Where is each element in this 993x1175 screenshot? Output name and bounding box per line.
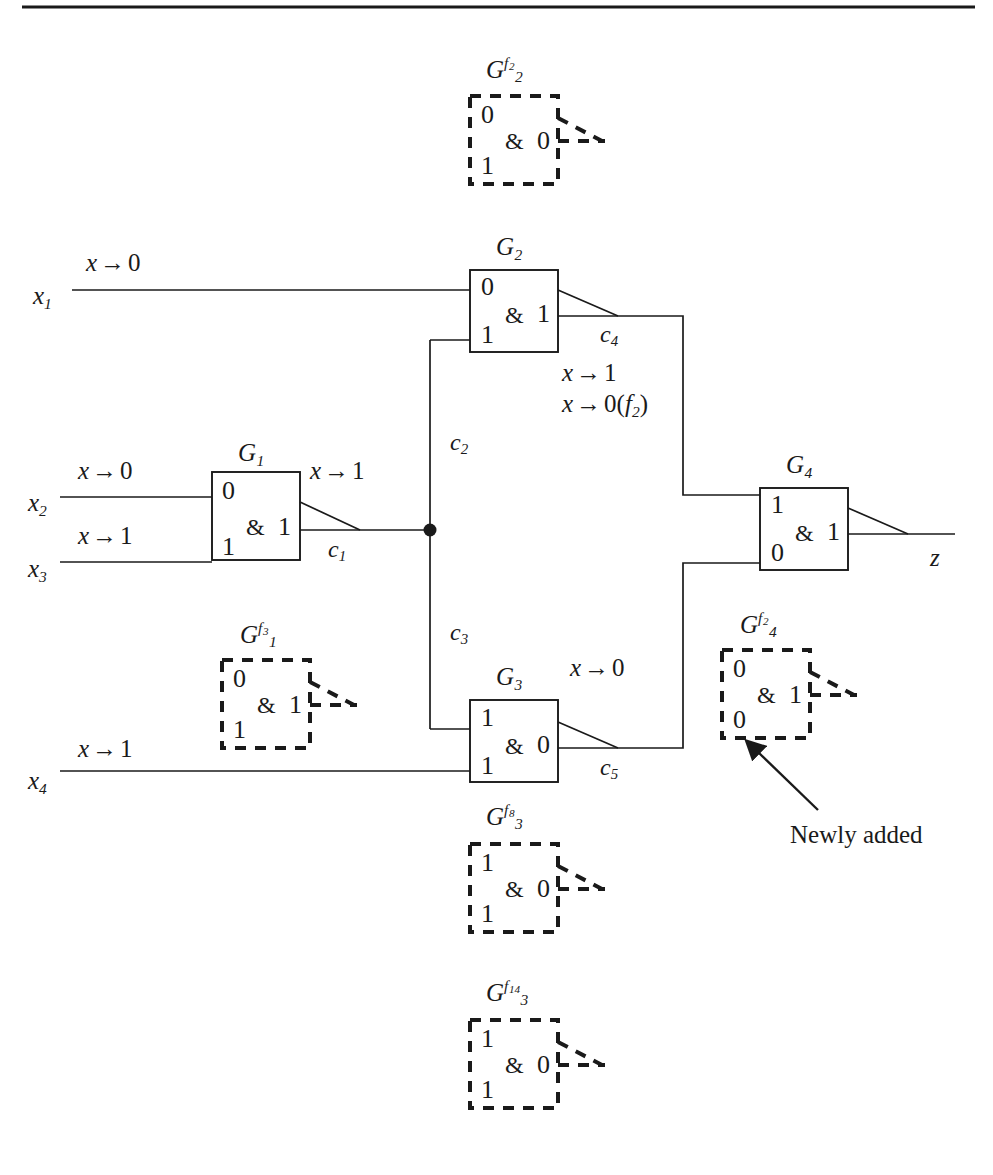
fault-gate-g3f14-name: Gf143: [486, 978, 528, 1008]
fault-gate-g1f3-output-value: 1: [289, 692, 302, 718]
fault-gate-g2f2-name: Gf22: [486, 55, 523, 85]
gate-g4-name: G4: [786, 452, 812, 480]
fault-gate-g3f14-operator: &: [505, 1053, 524, 1077]
transition-x2: x→0: [78, 458, 133, 483]
gate-g1-name: G1: [238, 440, 264, 468]
gate-g2-name: G2: [496, 234, 522, 262]
fault-gate-g3f8-output-value: 0: [537, 876, 550, 902]
fault-gate-g1f3-operator: &: [257, 693, 276, 717]
g1-output-slash: [300, 502, 360, 530]
fault-gate-g1f3-input-top: 0: [233, 666, 246, 692]
newly-added-note: Newly added: [790, 822, 923, 847]
transition-c4-b: x→0(f2): [562, 391, 648, 419]
gate-g3-name: G3: [496, 664, 522, 692]
fault-gate-g3f14-input-top: 1: [481, 1026, 494, 1052]
g2-output-slash: [558, 290, 618, 316]
fault-gate-g1f3-input-bottom: 1: [233, 717, 246, 743]
fault-gate-g4f2-input-top: 0: [733, 656, 746, 682]
gate-g2-output-value: 1: [537, 301, 550, 327]
figure-root: Gf22 0 & 0 1 x→0 x1 G2 0 & 1 1 c4 x→1 x→…: [0, 0, 993, 1175]
fault-gate-g1f3-name: Gf31: [240, 620, 277, 650]
fault-gate-g2f2-input-bottom: 1: [481, 153, 494, 179]
gate-g1-input-top: 0: [222, 478, 235, 504]
fault-gate-g3f8-input-bottom: 1: [481, 901, 494, 927]
gate-g2-input-bottom: 1: [481, 322, 494, 348]
net-label-c3: c3: [450, 620, 468, 647]
fault-gate-g1f3-slash: [310, 682, 354, 705]
output-label-z: z: [930, 545, 940, 570]
fault-gate-g2f2-output-value: 0: [537, 128, 550, 154]
fault-gate-g3f8-slash: [558, 866, 602, 889]
net-label-c5: c5: [600, 755, 618, 782]
gate-g1-output-value: 1: [278, 514, 291, 540]
fault-gate-g4f2-operator: &: [757, 683, 776, 707]
fault-gate-g4f2-slash: [810, 672, 854, 695]
input-label-x1: x1: [33, 283, 52, 311]
gate-g3-input-bottom: 1: [481, 753, 494, 779]
gate-g4-input-bottom: 0: [771, 540, 784, 566]
transition-c1: x→1: [310, 458, 365, 483]
transition-x4: x→1: [78, 736, 133, 761]
gate-g1-input-bottom: 1: [222, 534, 235, 560]
newly-added-arrow: [758, 752, 818, 810]
input-label-x3: x3: [28, 556, 47, 584]
fault-gate-g2f2-input-top: 0: [481, 102, 494, 128]
g3-output-slash: [558, 722, 618, 748]
net-label-c4: c4: [600, 322, 618, 349]
transition-c4-a: x→1: [562, 360, 617, 385]
input-label-x2: x2: [28, 490, 47, 518]
fault-gate-g3f14-output-value: 0: [537, 1052, 550, 1078]
gate-g2-operator: &: [505, 303, 524, 327]
gate-g3-input-top: 1: [481, 705, 494, 731]
gate-g4-output-value: 1: [827, 519, 840, 545]
gate-g4-input-top: 1: [771, 492, 784, 518]
transition-c5: x→0: [570, 655, 625, 680]
fault-gate-g3f8-name: Gf83: [486, 802, 523, 832]
fault-gate-g3f14-slash: [558, 1042, 602, 1065]
fault-gate-g2f2-operator: &: [505, 129, 524, 153]
transition-x3: x→1: [78, 523, 133, 548]
fault-gate-g4f2-output-value: 1: [789, 682, 802, 708]
fanout-dot-c1: [424, 524, 437, 537]
gate-g4-operator: &: [795, 521, 814, 545]
g4-output-slash: [848, 508, 908, 534]
input-label-x4: x4: [28, 768, 47, 796]
gate-g1-operator: &: [246, 515, 265, 539]
net-label-c1: c1: [328, 537, 346, 564]
fault-gate-g4f2-input-bottom: 0: [733, 707, 746, 733]
gate-g3-output-value: 0: [537, 732, 550, 758]
transition-x1: x→0: [86, 250, 141, 275]
gate-g3-operator: &: [505, 734, 524, 758]
fault-gate-g2f2-slash: [558, 118, 602, 141]
gate-g2-input-top: 0: [481, 274, 494, 300]
net-label-c2: c2: [450, 430, 468, 457]
fault-gate-g3f8-input-top: 1: [481, 850, 494, 876]
fault-gate-g4f2-name: Gf24: [740, 610, 777, 640]
fault-gate-g3f8-operator: &: [505, 877, 524, 901]
fault-gate-g3f14-input-bottom: 1: [481, 1077, 494, 1103]
